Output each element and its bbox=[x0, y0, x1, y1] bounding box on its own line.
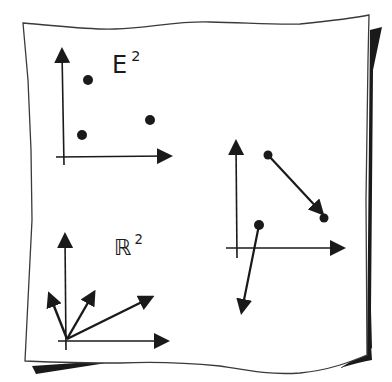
label-base: ℝ bbox=[114, 235, 131, 260]
x-axis bbox=[56, 156, 168, 157]
diagram-canvas bbox=[0, 0, 392, 382]
label-superscript: 2 bbox=[131, 48, 141, 64]
paper-shadow-right bbox=[367, 27, 382, 352]
point bbox=[145, 115, 155, 125]
label-vector-space: ℝ2 bbox=[114, 233, 143, 259]
vector-end-dot bbox=[320, 214, 329, 223]
y-axis bbox=[236, 144, 237, 258]
label-superscript: 2 bbox=[134, 232, 142, 247]
point bbox=[77, 130, 87, 140]
label-base: E bbox=[112, 51, 128, 79]
label-euclidean-plane: E2 bbox=[112, 49, 141, 77]
paper-outline bbox=[23, 15, 369, 374]
point bbox=[83, 75, 93, 85]
